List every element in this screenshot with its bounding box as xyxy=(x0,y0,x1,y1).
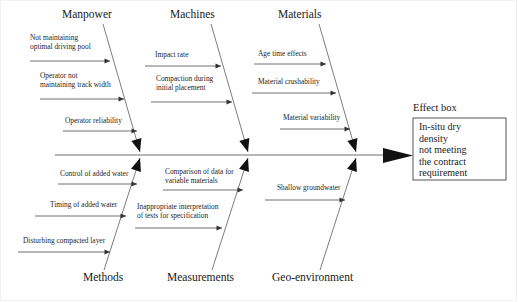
cause-label-top-0-c2-line-0: Operator reliability xyxy=(65,116,122,125)
cause-label-bottom-0-c1-line-0: Timing of added water xyxy=(50,200,118,209)
branch-line-top-1 xyxy=(211,24,248,152)
effect-box-line-3: the contract xyxy=(419,156,466,167)
cause-label-top-0-c1-line-1: maintaining track width xyxy=(40,80,111,89)
spine-arrowhead xyxy=(383,148,413,163)
category-label-materials: Materials xyxy=(278,8,322,20)
effect-box-line-0: In-situ dry xyxy=(419,121,461,132)
cause-label-bottom-1-c1-line-1: of tests for specification xyxy=(137,211,209,220)
cause-arrowhead-top-1-c1 xyxy=(227,100,233,105)
cause-arrowhead-top-2-c0 xyxy=(321,62,327,67)
effect-box-line-4: requirement xyxy=(419,167,468,178)
cause-arrowhead-bottom-0-c1 xyxy=(121,214,127,219)
category-label-machines: Machines xyxy=(170,8,215,20)
branch-arrowhead-top-0 xyxy=(131,138,141,152)
category-label-manpower: Manpower xyxy=(62,8,112,21)
cause-arrowhead-top-0-c1 xyxy=(119,97,125,102)
branch-arrowhead-bottom-0 xyxy=(131,158,141,172)
branch-arrowhead-bottom-1 xyxy=(239,158,249,172)
cause-label-bottom-0-c0-line-0: Control of added water xyxy=(60,169,129,178)
cause-arrowhead-top-1-c0 xyxy=(216,64,222,69)
effect-box-line-1: density xyxy=(419,133,448,144)
cause-label-top-0-c0-line-1: optimal driving pool xyxy=(30,42,91,51)
fishbone-svg: ManpowerMachinesMaterialsMethodsMeasurem… xyxy=(0,0,518,302)
cause-label-group: Not maintainingoptimal driving poolOpera… xyxy=(18,33,350,254)
top-branch-group xyxy=(103,24,357,152)
branch-line-top-2 xyxy=(319,24,356,152)
cause-label-bottom-1-c0-line-1: variable materials xyxy=(165,176,218,185)
cause-arrowhead-top-0-c0 xyxy=(105,59,111,64)
cause-arrowhead-top-2-c1 xyxy=(331,91,337,96)
branch-line-bottom-2 xyxy=(320,158,356,270)
cause-label-top-2-c0-line-0: Age time effects xyxy=(258,49,307,58)
branch-arrowhead-top-2 xyxy=(347,138,357,152)
effect-box-caption: Effect box xyxy=(413,102,458,113)
branch-arrowhead-top-1 xyxy=(239,138,249,152)
cause-label-top-1-c0-line-0: Impact rate xyxy=(155,50,189,59)
category-label-methods: Methods xyxy=(83,271,124,283)
cause-label-top-2-c2-line-0: Material variability xyxy=(283,113,341,122)
cause-arrowhead-bottom-1-c1 xyxy=(217,226,223,231)
category-label-measurements: Measurements xyxy=(167,271,235,283)
fishbone-diagram-canvas: ManpowerMachinesMaterialsMethodsMeasurem… xyxy=(0,0,518,302)
cause-label-bottom-0-c2-line-0: Disturbing compacted layer xyxy=(23,236,106,245)
cause-label-top-2-c1-line-0: Material crushability xyxy=(258,77,320,86)
cause-arrowhead-bottom-0-c0 xyxy=(132,182,138,187)
category-label-group: ManpowerMachinesMaterialsMethodsMeasurem… xyxy=(62,8,354,283)
cause-label-bottom-2-c0-line-0: Shallow groundwater xyxy=(277,183,341,192)
category-label-geo-environment: Geo-environment xyxy=(272,271,354,283)
effect-box-text-group: In-situ drydensitynot meetingthe contrac… xyxy=(419,121,468,178)
effect-box-line-2: not meeting xyxy=(419,144,467,155)
cause-arrowhead-bottom-1-c0 xyxy=(238,188,244,193)
cause-label-top-1-c1-line-1: initial placement xyxy=(156,83,206,92)
branch-arrowhead-bottom-2 xyxy=(347,158,357,172)
